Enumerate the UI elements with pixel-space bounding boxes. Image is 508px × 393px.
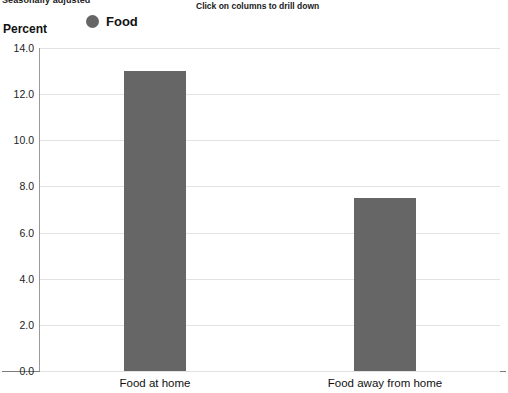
legend-item-label-food[interactable]: Food [106, 14, 138, 29]
y-axis-tick-label: 4.0 [0, 273, 34, 285]
gridline [40, 48, 500, 49]
drill-down-hint: Click on columns to drill down [196, 1, 319, 11]
gridline [40, 371, 500, 372]
y-axis-tick-label: 8.0 [0, 180, 34, 192]
y-axis-tick-label: 12.0 [0, 88, 34, 100]
circle-marker-icon [86, 15, 99, 28]
gridline [40, 279, 500, 280]
x-axis-category-label: Food away from home [328, 377, 442, 389]
bar-column[interactable] [124, 71, 186, 371]
chart-legend: Food [86, 14, 138, 29]
y-axis-tick-labels: 0.02.04.06.08.010.012.014.0 [0, 48, 34, 371]
gridline [40, 233, 500, 234]
y-axis-tick-label: 6.0 [0, 227, 34, 239]
gridline [40, 94, 500, 95]
gridline [40, 140, 500, 141]
x-axis-category-label: Food at home [120, 377, 191, 389]
y-axis-tick-label: 2.0 [0, 319, 34, 331]
y-axis-tick-label: 14.0 [0, 42, 34, 54]
gridline [40, 186, 500, 187]
y-axis-tick-label: 10.0 [0, 134, 34, 146]
y-axis-tick-label: 0.0 [0, 365, 34, 377]
bar-column[interactable] [354, 198, 416, 371]
plot-area [40, 48, 500, 371]
y-axis-title: Percent [3, 22, 47, 36]
gridline [40, 325, 500, 326]
chart-subtitle: Seasonally adjusted [2, 0, 90, 5]
